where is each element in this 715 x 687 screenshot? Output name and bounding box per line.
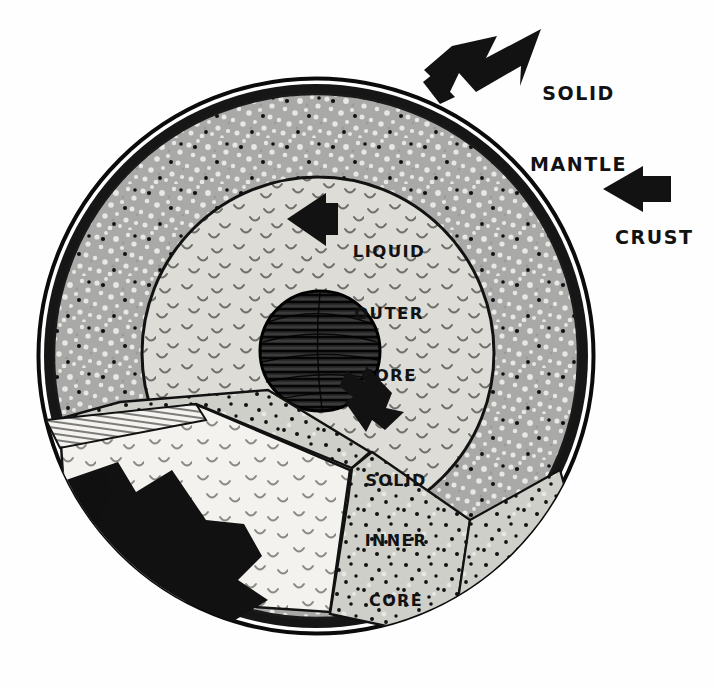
crust-label: CRUST bbox=[615, 178, 694, 297]
solid-mantle-label: SOLID MANTLE bbox=[530, 34, 627, 224]
solid-mantle-label-line1: SOLID bbox=[530, 82, 627, 106]
solid-mantle-label-line2: MANTLE bbox=[530, 153, 627, 177]
liquid-outer-core-label-line2: OUTER bbox=[341, 304, 437, 325]
solid-inner-core-label-line2: INNER bbox=[355, 531, 437, 551]
solid-inner-core-label-line1: SOLID bbox=[355, 471, 437, 491]
diagram-canvas: SOLID MANTLE CRUST LIQUID OUTER CORE SOL… bbox=[0, 0, 715, 687]
crust-label-line1: CRUST bbox=[615, 226, 694, 250]
liquid-outer-core-label-line3: CORE bbox=[341, 366, 437, 387]
mantle-arrow bbox=[423, 29, 541, 104]
liquid-outer-core-label-line1: LIQUID bbox=[341, 242, 437, 263]
liquid-outer-core-label: LIQUID OUTER CORE bbox=[341, 201, 437, 428]
solid-inner-core-label-line3: CORE bbox=[355, 591, 437, 611]
solid-inner-core-label: SOLID INNER CORE bbox=[355, 431, 437, 651]
